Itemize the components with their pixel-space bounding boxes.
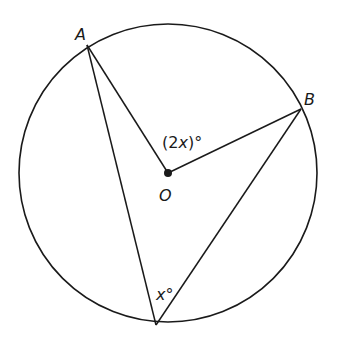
radius-oa	[87, 45, 168, 173]
point-label-a: A	[74, 25, 86, 44]
central-angle-label: (2x)°	[162, 133, 202, 152]
point-label-b: B	[304, 90, 315, 109]
point-label-o: O	[159, 186, 172, 205]
center-point	[164, 169, 172, 177]
chord-ac	[87, 45, 156, 325]
inscribed-angle-label: x°	[155, 285, 173, 304]
circle-diagram: A B O (2x)° x°	[0, 0, 337, 352]
